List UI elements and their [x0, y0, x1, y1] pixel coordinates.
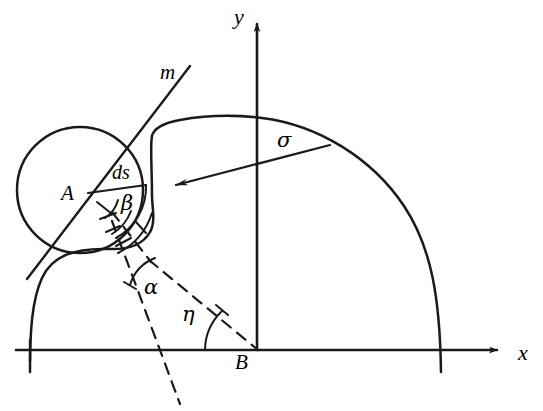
label-point-a: A	[61, 183, 74, 204]
label-axis-x: x	[518, 342, 528, 364]
label-ds: ds	[112, 162, 130, 182]
arc-eta	[205, 311, 222, 350]
arc-tick-2	[100, 213, 116, 219]
figure-canvas	[0, 0, 543, 411]
label-angle-beta: β	[121, 193, 133, 214]
geometry-figure: m y x A B ds β α η σ	[0, 0, 543, 411]
dashed-line-from-a	[112, 221, 180, 404]
sigma-arrow	[176, 145, 330, 185]
label-angle-eta: η	[182, 304, 195, 325]
dashed-line-to-origin	[149, 260, 258, 350]
label-point-b: B	[235, 352, 248, 373]
arc-tick-1	[97, 202, 112, 214]
label-sigma: σ	[277, 130, 291, 151]
label-line-m: m	[160, 62, 175, 83]
main-circle	[17, 127, 143, 253]
label-angle-alpha: α	[144, 277, 158, 298]
outer-curve	[30, 116, 441, 372]
label-axis-y: y	[234, 6, 244, 28]
eta-tick	[216, 305, 228, 315]
